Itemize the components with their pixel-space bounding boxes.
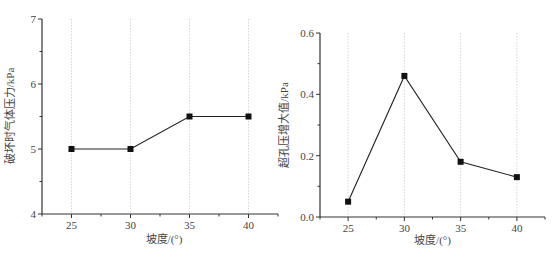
chart-gas-pressure: 253035404567坡度/(°)破坏时气体压力/kPa xyxy=(3,13,278,246)
y-tick-label: 6 xyxy=(31,78,37,90)
data-point-marker xyxy=(69,146,75,152)
y-tick-label: 5 xyxy=(31,143,37,155)
y-tick-label: 0.0 xyxy=(300,211,314,223)
series-line xyxy=(348,76,517,202)
figure: 253035404567坡度/(°)破坏时气体压力/kPa253035400.0… xyxy=(0,0,555,257)
data-point-marker xyxy=(128,146,134,152)
x-tick-label: 25 xyxy=(343,222,355,234)
data-point-marker xyxy=(514,174,520,180)
y-axis-title: 破坏时气体压力/kPa xyxy=(3,68,16,165)
y-tick-label: 4 xyxy=(31,208,37,220)
x-tick-label: 30 xyxy=(125,219,137,231)
chart-excess-pore-pressure: 253035400.00.20.40.6坡度/(°)超孔压增大值/kPa xyxy=(277,27,545,247)
series-line xyxy=(72,117,249,150)
data-point-marker xyxy=(458,159,464,165)
data-point-marker xyxy=(401,73,407,79)
data-point-marker xyxy=(187,114,193,120)
y-axis-title: 超孔压增大值/kPa xyxy=(277,82,290,168)
y-tick-label: 0.6 xyxy=(300,27,314,39)
x-axis-title: 坡度/(°) xyxy=(146,232,183,246)
y-tick-label: 0.4 xyxy=(300,88,314,100)
x-tick-label: 35 xyxy=(455,222,467,234)
y-tick-label: 0.2 xyxy=(300,150,314,162)
y-tick-label: 7 xyxy=(31,13,37,25)
data-point-marker xyxy=(345,199,351,205)
x-tick-label: 35 xyxy=(184,219,196,231)
x-tick-label: 40 xyxy=(243,219,255,231)
x-tick-label: 40 xyxy=(511,222,523,234)
x-tick-label: 25 xyxy=(66,219,78,231)
data-point-marker xyxy=(246,114,252,120)
x-axis-title: 坡度/(°) xyxy=(414,233,451,247)
x-tick-label: 30 xyxy=(399,222,411,234)
